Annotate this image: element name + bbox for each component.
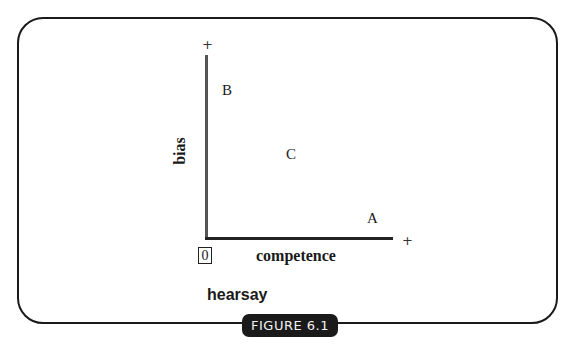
y-axis-label: bias <box>171 131 189 171</box>
figure-frame <box>17 17 558 324</box>
hearsay-caption: hearsay <box>207 286 268 304</box>
figure-number-label: FIGURE 6.1 <box>242 314 338 337</box>
point-b-label: B <box>222 83 232 98</box>
y-axis-plus-marker: + <box>202 38 213 51</box>
x-axis-line <box>205 237 393 240</box>
origin-label: 0 <box>198 247 212 264</box>
x-axis-label: competence <box>256 247 336 265</box>
point-c-label: C <box>286 147 296 162</box>
y-axis-line <box>205 55 208 240</box>
x-axis-plus-marker: + <box>402 234 413 247</box>
point-a-label: A <box>367 211 378 226</box>
